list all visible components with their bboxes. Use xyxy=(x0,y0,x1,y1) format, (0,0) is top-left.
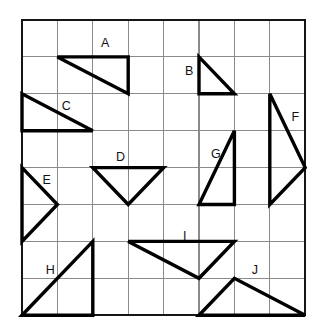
triangle-label-c: C xyxy=(62,99,71,113)
triangle-b xyxy=(199,57,234,94)
triangle-j xyxy=(199,278,305,315)
worksheet-canvas: A B C D E F G H I J xyxy=(0,0,327,336)
triangle-label-d: D xyxy=(116,150,125,164)
triangle-label-a: A xyxy=(101,36,110,50)
triangle-label-e: E xyxy=(43,173,51,187)
triangle-label-i: I xyxy=(183,229,186,243)
triangle-label-b: B xyxy=(185,64,193,78)
triangle-label-h: H xyxy=(46,263,55,277)
triangle-label-f: F xyxy=(291,110,299,124)
triangle-i xyxy=(128,241,234,278)
grid-figure: A B C D E F G H I J xyxy=(0,0,327,336)
triangle-label-j: J xyxy=(252,263,258,277)
triangle-label-g: G xyxy=(211,147,221,161)
triangle-f xyxy=(270,94,305,205)
